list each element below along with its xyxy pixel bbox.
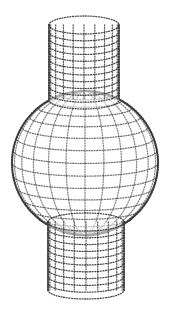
wireframe-figure [0,0,169,310]
cylinder-sphere-wireframe [0,0,169,310]
